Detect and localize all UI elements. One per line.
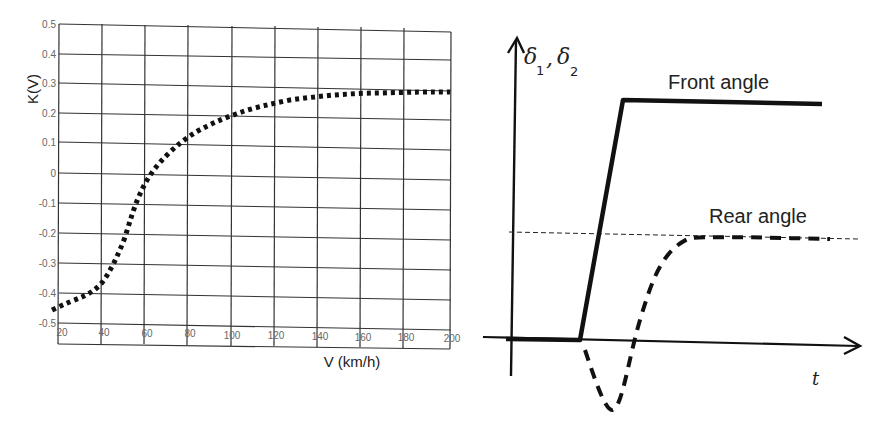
x-axis-label: t	[812, 368, 820, 389]
x-tick: 180	[398, 332, 415, 343]
y-axis-label: δ 1 , δ 2	[524, 44, 578, 79]
rear-reference-line	[509, 232, 858, 239]
k-of-v-chart: 0.5 0.4 0.3 0.2 0.1 0 -0.1 -0.2 -0.3 -0.…	[24, 19, 461, 370]
y-tick: 0.4	[42, 49, 56, 60]
x-axis-title: V (km/h)	[324, 353, 381, 370]
y-axis	[511, 40, 516, 376]
y-tick: 0.3	[42, 78, 56, 89]
x-tick: 80	[184, 328, 196, 339]
svg-text:1: 1	[536, 63, 544, 78]
y-tick: -0.1	[39, 198, 57, 209]
front-angle-label: Front angle	[668, 71, 769, 93]
y-tick: -0.2	[39, 228, 57, 239]
kv-curve	[52, 92, 450, 310]
y-tick: -0.5	[39, 318, 57, 329]
y-tick: -0.4	[39, 288, 57, 299]
y-tick: 0.1	[42, 137, 56, 148]
x-tick: 200	[444, 333, 461, 344]
grid	[58, 24, 451, 349]
figure: 0.5 0.4 0.3 0.2 0.1 0 -0.1 -0.2 -0.3 -0.…	[0, 0, 881, 429]
y-axis-title: K(V)	[24, 74, 41, 104]
y-tick: -0.3	[39, 258, 57, 269]
svg-text:,: ,	[546, 46, 553, 71]
svg-text:δ: δ	[557, 44, 570, 69]
x-tick: 20	[56, 327, 68, 338]
x-tick: 60	[141, 328, 153, 339]
y-tick: 0	[50, 168, 56, 179]
x-tick: 120	[268, 330, 285, 341]
x-tick: 160	[355, 332, 372, 343]
rear-angle-label: Rear angle	[709, 205, 807, 227]
x-tick: 140	[312, 331, 329, 342]
rear-angle-line	[585, 237, 830, 410]
steering-angle-diagram: δ 1 , δ 2 t Front angle Rear angle	[483, 38, 860, 410]
x-tick: 100	[224, 330, 241, 341]
y-tick: 0.5	[42, 19, 56, 30]
svg-text:2: 2	[570, 64, 578, 79]
y-tick-labels: 0.5 0.4 0.3 0.2 0.1 0 -0.1 -0.2 -0.3 -0.…	[39, 19, 57, 329]
y-tick: 0.2	[42, 108, 56, 119]
x-tick: 40	[98, 327, 110, 338]
